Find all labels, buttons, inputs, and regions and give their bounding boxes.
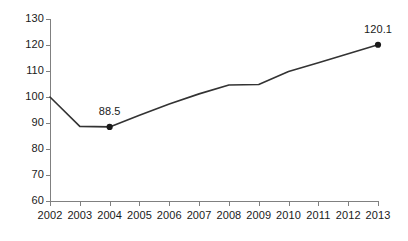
y-axis-tick-label: 120 (18, 39, 44, 50)
y-axis-tick-label: 110 (18, 65, 44, 76)
y-axis-tick-label: 100 (18, 91, 44, 102)
y-axis-tick-label: 70 (18, 169, 44, 180)
y-axis-tick-label: 130 (18, 13, 44, 24)
chart-plot-area (0, 0, 408, 241)
line-chart: 13012011010090807060 2002200320042005200… (0, 0, 408, 241)
y-axis-tick-label: 90 (18, 117, 44, 128)
data-point-markers (107, 42, 382, 130)
y-axis-tick-label: 80 (18, 143, 44, 154)
y-axis-tick-label: 60 (18, 195, 44, 206)
data-label-low: 88.5 (90, 106, 130, 117)
data-label-high: 120.1 (358, 24, 398, 35)
x-axis-tick-label: 2013 (361, 210, 395, 221)
